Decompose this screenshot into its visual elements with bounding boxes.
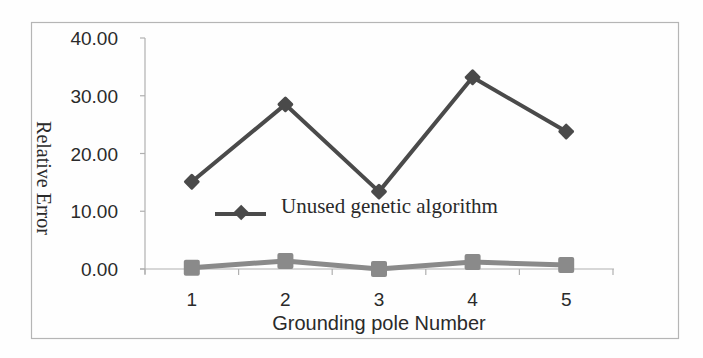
chart-canvas: 0.0010.0020.0030.0040.00 12345 Unused ge… — [0, 0, 703, 358]
y-tick-label: 10.00 — [70, 201, 118, 222]
diamond-marker-icon — [558, 123, 575, 140]
x-tick-label: 1 — [187, 289, 198, 310]
square-marker-icon — [277, 253, 293, 269]
y-tick-label: 30.00 — [70, 86, 118, 107]
y-axis-ticks: 0.0010.0020.0030.0040.00 — [70, 28, 145, 280]
line-chart: 0.0010.0020.0030.0040.00 12345 Unused ge… — [0, 0, 703, 358]
series-unused-genetic-algorithm — [183, 69, 574, 200]
x-tick-label: 3 — [374, 289, 385, 310]
legend-diamond-icon — [233, 205, 249, 221]
y-tick-label: 20.00 — [70, 144, 118, 165]
y-axis-title: Relative Error — [33, 121, 55, 235]
series-layer — [183, 69, 574, 277]
square-marker-icon — [371, 261, 387, 277]
x-tick-label: 2 — [280, 289, 291, 310]
x-axis-title: Grounding pole Number — [272, 312, 486, 334]
x-tick-label: 4 — [467, 289, 478, 310]
legend: Unused genetic algorithm — [215, 194, 498, 220]
y-tick-label: 0.00 — [81, 259, 118, 280]
y-tick-label: 40.00 — [70, 28, 118, 49]
square-marker-icon — [184, 260, 200, 276]
square-marker-icon — [465, 254, 481, 270]
x-tick-label: 5 — [561, 289, 572, 310]
series-line — [192, 77, 566, 191]
series-square-series — [184, 253, 574, 277]
chart-frame — [32, 23, 679, 339]
square-marker-icon — [558, 257, 574, 273]
legend-label: Unused genetic algorithm — [281, 194, 498, 218]
